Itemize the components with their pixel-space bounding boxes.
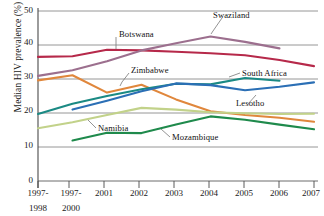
annotation-lesotho: Lesotho	[236, 98, 264, 108]
annotation-mozambique: Mozambique	[172, 132, 218, 142]
annotation-zimbabwe: Zimbabwe	[131, 65, 169, 75]
x-tick-label-1997-2000-line2: 2000	[53, 203, 89, 213]
x-tick-label-2005: 2005	[227, 188, 261, 198]
chart-plot	[0, 0, 324, 216]
chart-container: Median HIV prevalence (%) 50 40 30 20 10…	[0, 0, 324, 216]
x-tick-label-2002: 2002	[122, 188, 156, 198]
x-tick-label-1997-1998-line2: 1998	[20, 203, 56, 213]
annotation-botswana: Botswana	[119, 29, 154, 39]
x-tick-label-2006: 2006	[262, 188, 296, 198]
annotation-south-africa: South Africa	[242, 68, 287, 78]
x-tick-label-2003: 2003	[157, 188, 191, 198]
gridlines	[38, 11, 318, 181]
x-tick-label-1997-1998-line1: 1997-	[20, 188, 56, 198]
annotation-swaziland: Swaziland	[213, 10, 250, 20]
x-tick-label-2004: 2004	[192, 188, 226, 198]
annotation-namibia: Namibia	[98, 123, 128, 133]
x-tick-label-2001: 2001	[87, 188, 121, 198]
leader-swaziland	[211, 18, 222, 34]
leader-mozambique	[161, 129, 170, 137]
x-tick-label-2007: 2007	[294, 188, 324, 198]
leader-namibia	[88, 120, 96, 128]
x-tick-label-1997-2000-line1: 1997-	[53, 188, 89, 198]
x-tick-marks	[38, 181, 314, 188]
series-line-botswana	[38, 50, 314, 66]
leader-zimbabwe	[120, 73, 129, 86]
leader-south-africa	[229, 73, 240, 77]
